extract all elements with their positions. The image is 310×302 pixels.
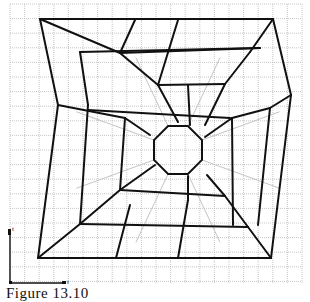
y-axis-label: t	[12, 225, 14, 233]
x-axis-arrow-icon	[62, 281, 66, 284]
y-axis-arrow-icon	[8, 229, 11, 235]
figure-caption: Figure 13.10	[6, 285, 89, 302]
mesh-lines	[38, 19, 291, 258]
origin-marker-icon	[9, 281, 12, 284]
